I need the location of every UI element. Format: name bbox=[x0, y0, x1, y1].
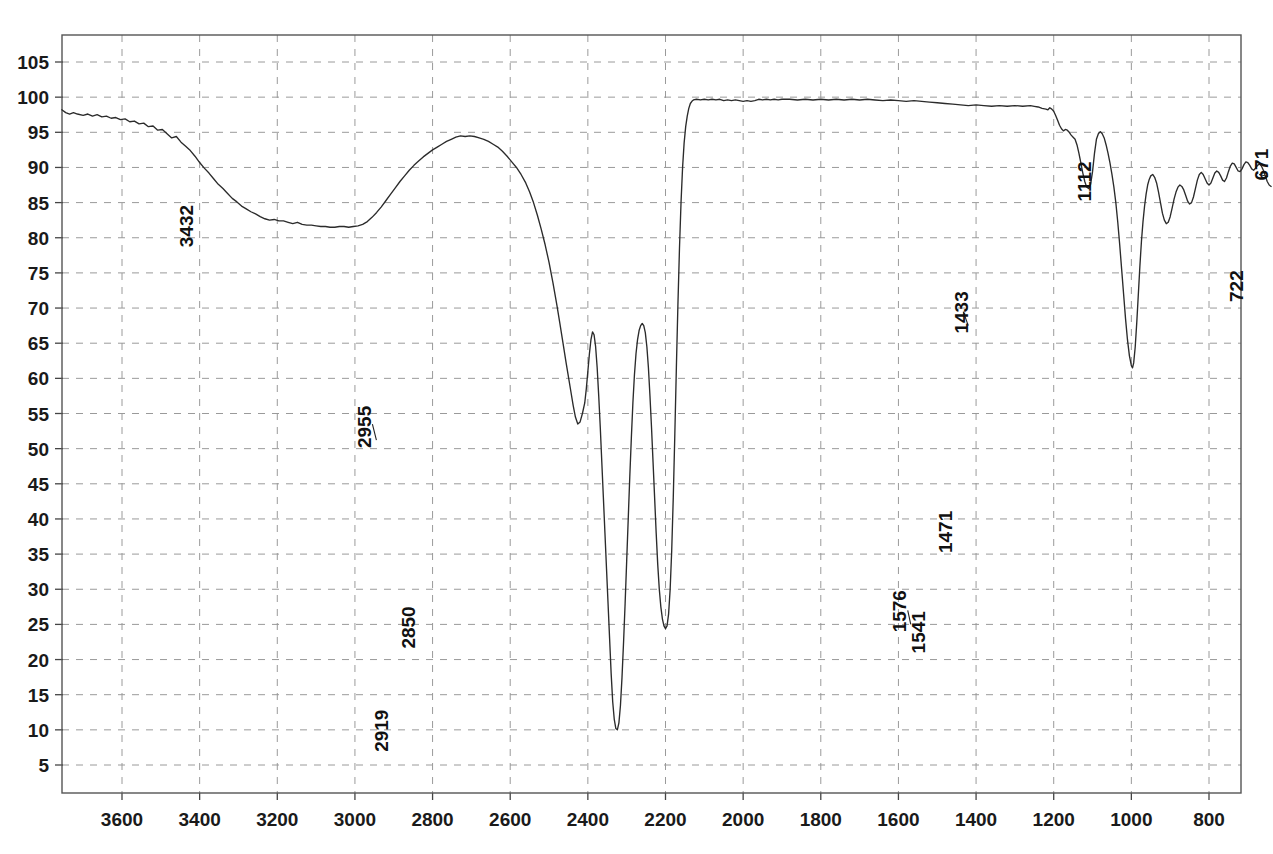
y-tick-label: 5 bbox=[38, 755, 49, 776]
y-tick-label: 60 bbox=[28, 368, 49, 389]
y-tick-label: 105 bbox=[17, 52, 49, 73]
y-tick-label: 65 bbox=[28, 333, 50, 354]
y-tick-label: 100 bbox=[17, 87, 49, 108]
ir-spectrum-chart: 1051009590858075706560555045403530252015… bbox=[0, 0, 1273, 854]
peak-annotation: 1433 bbox=[951, 291, 972, 333]
peak-annotation: 1112 bbox=[1074, 161, 1095, 201]
peak-annotation: 722 bbox=[1226, 270, 1247, 302]
y-tick-label: 95 bbox=[28, 122, 50, 143]
y-tick-label: 30 bbox=[28, 579, 49, 600]
x-tick-label: 3200 bbox=[256, 809, 298, 830]
peak-label-3432: 3432 bbox=[176, 205, 197, 247]
peak-label-2919: 2919 bbox=[371, 710, 392, 752]
peak-label-2955: 2955 bbox=[354, 405, 375, 448]
x-tick-label: 3400 bbox=[179, 809, 221, 830]
peak-label-1112: 1112 bbox=[1074, 161, 1095, 201]
spectrum-plot: 1051009590858075706560555045403530252015… bbox=[0, 0, 1273, 854]
x-tick-label: 1000 bbox=[1110, 809, 1152, 830]
y-tick-label: 10 bbox=[28, 720, 49, 741]
x-tick-label: 2600 bbox=[489, 809, 531, 830]
y-tick-label: 90 bbox=[28, 157, 49, 178]
peak-annotation: 1541 bbox=[908, 611, 929, 654]
x-tick-label: 1800 bbox=[800, 809, 842, 830]
y-tick-label: 40 bbox=[28, 509, 49, 530]
x-tick-label: 2800 bbox=[411, 809, 453, 830]
peak-label-722: 722 bbox=[1226, 270, 1247, 302]
peak-label-1541: 1541 bbox=[908, 611, 929, 654]
x-tick-label: 1400 bbox=[955, 809, 997, 830]
x-tick-label: 1200 bbox=[1033, 809, 1075, 830]
y-tick-label: 20 bbox=[28, 650, 49, 671]
y-tick-label: 80 bbox=[28, 228, 49, 249]
y-tick-label: 50 bbox=[28, 439, 49, 460]
peak-label-1471: 1471 bbox=[936, 510, 957, 553]
peak-annotation: 671 bbox=[1251, 148, 1272, 180]
peak-label-2850: 2850 bbox=[398, 606, 419, 648]
x-tick-label: 800 bbox=[1193, 809, 1225, 830]
peak-annotation: 2919 bbox=[371, 710, 392, 752]
peak-label-671: 671 bbox=[1251, 148, 1272, 180]
peak-annotation: 3432 bbox=[176, 205, 197, 247]
y-tick-label: 45 bbox=[28, 474, 50, 495]
x-tick-label: 2400 bbox=[567, 809, 609, 830]
x-tick-label: 2200 bbox=[644, 809, 686, 830]
chart-background bbox=[0, 0, 1273, 854]
x-tick-label: 1600 bbox=[877, 809, 919, 830]
y-tick-label: 25 bbox=[28, 614, 50, 635]
x-axis-tick-labels: 3600340032003000280026002400220020001800… bbox=[101, 809, 1225, 830]
peak-label-1433: 1433 bbox=[951, 291, 972, 333]
x-tick-label: 2000 bbox=[722, 809, 764, 830]
peak-annotation: 2955 bbox=[354, 405, 376, 448]
x-tick-label: 3600 bbox=[101, 809, 143, 830]
peak-annotation: 1471 bbox=[936, 510, 957, 553]
y-tick-label: 15 bbox=[28, 685, 50, 706]
peak-label-1576: 1576 bbox=[889, 590, 910, 632]
y-tick-label: 35 bbox=[28, 544, 50, 565]
y-tick-label: 85 bbox=[28, 193, 50, 214]
peak-annotation: 2850 bbox=[398, 606, 419, 648]
y-tick-label: 70 bbox=[28, 298, 49, 319]
y-tick-label: 55 bbox=[28, 404, 50, 425]
y-tick-label: 75 bbox=[28, 263, 50, 284]
x-tick-label: 3000 bbox=[334, 809, 376, 830]
